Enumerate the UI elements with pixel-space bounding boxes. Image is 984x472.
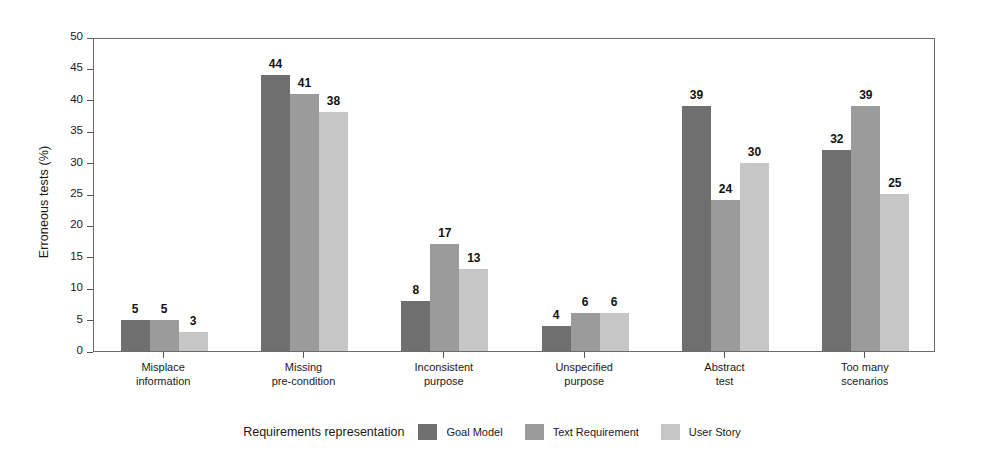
x-tick-mark bbox=[724, 352, 725, 358]
bar-group: 444138 bbox=[261, 39, 348, 351]
bar-column[interactable]: 44 bbox=[261, 39, 290, 351]
bar[interactable] bbox=[319, 112, 348, 351]
bar-group-bars: 466 bbox=[542, 39, 629, 351]
bar-column[interactable]: 25 bbox=[880, 39, 909, 351]
y-tick-label: 10 bbox=[70, 281, 83, 293]
bar[interactable] bbox=[121, 320, 150, 351]
bar-value-label: 24 bbox=[711, 183, 740, 195]
bar-column[interactable]: 8 bbox=[401, 39, 430, 351]
x-tick-label: Missingpre-condition bbox=[233, 361, 373, 389]
bar[interactable] bbox=[740, 163, 769, 351]
legend-item-label: Text Requirement bbox=[553, 426, 639, 438]
bar-group-bars: 323925 bbox=[822, 39, 909, 351]
y-tick-label: 15 bbox=[70, 250, 83, 262]
legend-swatch bbox=[525, 424, 544, 440]
bar-value-label: 4 bbox=[542, 309, 571, 321]
bar-group: 553 bbox=[121, 39, 208, 351]
bar[interactable] bbox=[822, 150, 851, 351]
bar-value-label: 38 bbox=[319, 95, 348, 107]
bar-chart-figure: Erroneous tests (%) 05101520253035404550… bbox=[0, 0, 984, 472]
legend-title: Requirements representation bbox=[243, 425, 404, 439]
bar-column[interactable]: 24 bbox=[711, 39, 740, 351]
bar-value-label: 17 bbox=[430, 227, 459, 239]
bar-value-label: 39 bbox=[851, 89, 880, 101]
x-tick-mark bbox=[443, 352, 444, 358]
y-tick-label: 0 bbox=[77, 344, 83, 356]
bar-group-bars: 553 bbox=[121, 39, 208, 351]
bar[interactable] bbox=[459, 269, 488, 351]
x-tick-mark bbox=[864, 352, 865, 358]
bar-column[interactable]: 5 bbox=[121, 39, 150, 351]
bar-column[interactable]: 13 bbox=[459, 39, 488, 351]
y-tick-label: 50 bbox=[70, 30, 83, 42]
bar[interactable] bbox=[600, 313, 629, 351]
bar-column[interactable]: 32 bbox=[822, 39, 851, 351]
bar-value-label: 3 bbox=[179, 315, 208, 327]
bar[interactable] bbox=[851, 106, 880, 351]
legend-item[interactable]: Text Requirement bbox=[525, 424, 639, 440]
bar-column[interactable]: 6 bbox=[600, 39, 629, 351]
y-tick-label: 5 bbox=[77, 313, 83, 325]
bar-column[interactable]: 39 bbox=[682, 39, 711, 351]
bar-group: 466 bbox=[542, 39, 629, 351]
bar[interactable] bbox=[290, 94, 319, 351]
x-axis-ticks: MisplaceinformationMissingpre-conditionI… bbox=[93, 352, 935, 412]
bar-column[interactable]: 17 bbox=[430, 39, 459, 351]
bar-column[interactable]: 38 bbox=[319, 39, 348, 351]
legend-item[interactable]: Goal Model bbox=[418, 424, 502, 440]
bar-column[interactable]: 4 bbox=[542, 39, 571, 351]
bar-group: 81713 bbox=[401, 39, 488, 351]
bar-value-label: 41 bbox=[290, 77, 319, 89]
bar-value-label: 25 bbox=[880, 177, 909, 189]
bar-column[interactable]: 3 bbox=[179, 39, 208, 351]
bar[interactable] bbox=[880, 194, 909, 351]
y-tick-label: 40 bbox=[70, 93, 83, 105]
bar-column[interactable]: 30 bbox=[740, 39, 769, 351]
bar[interactable] bbox=[571, 313, 600, 351]
legend-swatch bbox=[418, 424, 437, 440]
bar-value-label: 5 bbox=[121, 303, 150, 315]
y-axis-ticks: 05101520253035404550 bbox=[0, 0, 93, 472]
legend-item[interactable]: User Story bbox=[661, 424, 741, 440]
bar[interactable] bbox=[542, 326, 571, 351]
y-tick-label: 45 bbox=[70, 61, 83, 73]
y-tick-label: 35 bbox=[70, 124, 83, 136]
bar-column[interactable]: 5 bbox=[150, 39, 179, 351]
bar-value-label: 44 bbox=[261, 58, 290, 70]
bar-value-label: 30 bbox=[740, 146, 769, 158]
x-tick-mark bbox=[303, 352, 304, 358]
legend-item-label: User Story bbox=[689, 426, 741, 438]
bar-value-label: 32 bbox=[822, 133, 851, 145]
legend-item-label: Goal Model bbox=[446, 426, 502, 438]
bar-value-label: 6 bbox=[571, 296, 600, 308]
bar-column[interactable]: 41 bbox=[290, 39, 319, 351]
bar[interactable] bbox=[401, 301, 430, 351]
x-tick-label: Misplaceinformation bbox=[93, 361, 233, 389]
bar[interactable] bbox=[711, 200, 740, 351]
bar-value-label: 39 bbox=[682, 89, 711, 101]
plot-area: 55344413881713466392430323925 bbox=[93, 38, 935, 352]
y-tick-label: 30 bbox=[70, 156, 83, 168]
bar[interactable] bbox=[150, 320, 179, 351]
x-tick-mark bbox=[163, 352, 164, 358]
y-tick-label: 25 bbox=[70, 187, 83, 199]
bar[interactable] bbox=[682, 106, 711, 351]
plot-inner: 55344413881713466392430323925 bbox=[94, 39, 934, 351]
bar-value-label: 5 bbox=[150, 303, 179, 315]
x-tick-label: Abstracttest bbox=[654, 361, 794, 389]
chart-legend: Requirements representation Goal ModelTe… bbox=[0, 424, 984, 440]
y-tick-label: 20 bbox=[70, 218, 83, 230]
bar-value-label: 6 bbox=[600, 296, 629, 308]
bar[interactable] bbox=[261, 75, 290, 351]
bar[interactable] bbox=[430, 244, 459, 351]
bar[interactable] bbox=[179, 332, 208, 351]
bar-group-bars: 444138 bbox=[261, 39, 348, 351]
bar-column[interactable]: 39 bbox=[851, 39, 880, 351]
bar-group: 323925 bbox=[822, 39, 909, 351]
bar-group: 392430 bbox=[682, 39, 769, 351]
legend-items: Goal ModelText RequirementUser Story bbox=[418, 424, 740, 440]
legend-swatch bbox=[661, 424, 680, 440]
bar-column[interactable]: 6 bbox=[571, 39, 600, 351]
bar-group-bars: 81713 bbox=[401, 39, 488, 351]
bar-value-label: 13 bbox=[459, 252, 488, 264]
